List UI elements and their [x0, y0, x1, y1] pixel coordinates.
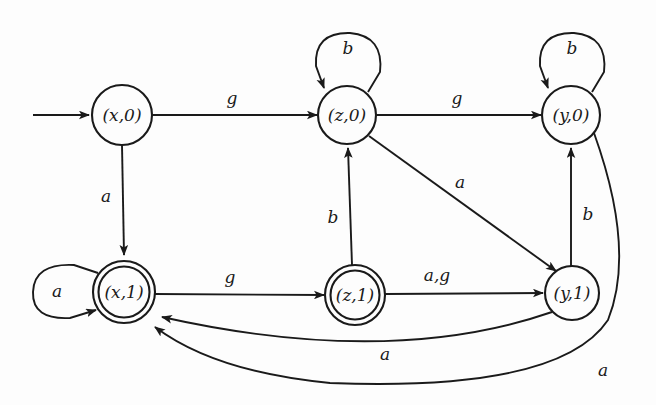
edge-x0-z0: g	[152, 88, 317, 116]
edge-z0-y0: g	[376, 88, 541, 116]
edge-y0-y0-selfloop: b	[540, 33, 605, 92]
edge-label-y0-x1: a	[598, 360, 608, 380]
state-label-x1: (x,1)	[104, 282, 143, 302]
edge-label-z0-z0: b	[343, 38, 354, 58]
state-label-y1: (y,1)	[554, 283, 591, 303]
edge-z0-y1: a	[369, 136, 556, 271]
edge-x0-x1: a	[101, 145, 124, 255]
edge-z0-z0-selfloop: b	[316, 33, 381, 92]
state-node-z0[interactable]: (z,0)	[318, 86, 376, 144]
edge-x1-z1: g	[155, 267, 324, 296]
edge-label-y0-y0: b	[567, 38, 578, 58]
edge-z1-y1: a,g	[385, 265, 543, 295]
state-node-y0[interactable]: (y,0)	[542, 86, 600, 144]
edge-label-y1-x1: a	[380, 344, 390, 364]
state-node-z1[interactable]: (z,1)	[325, 265, 385, 325]
state-node-x0[interactable]: (x,0)	[92, 85, 152, 145]
edge-label-x0-x1: a	[101, 186, 111, 206]
state-label-z1: (z,1)	[336, 285, 374, 305]
edge-y1-y0: b	[571, 148, 593, 266]
edge-label-x0-z0: g	[227, 88, 238, 108]
edge-label-x1-z1: g	[225, 267, 236, 287]
state-label-x0: (x,0)	[102, 105, 141, 125]
edge-label-z0-y0: g	[452, 88, 463, 108]
state-label-z0: (z,0)	[328, 105, 366, 125]
automaton-diagram-canvas: (z,0) --> g (y,0) --> g b b (x,1) --> a …	[0, 0, 656, 405]
edge-x1-x1-selfloop: a	[33, 265, 98, 318]
edge-z1-z0: b	[328, 148, 352, 265]
edge-label-z0-y1: a	[455, 172, 465, 192]
state-label-y0: (y,0)	[553, 105, 590, 125]
automaton-svg: (z,0) --> g (y,0) --> g b b (x,1) --> a …	[0, 0, 656, 405]
edge-label-z1-y1: a,g	[424, 265, 451, 285]
state-node-x1[interactable]: (x,1)	[93, 261, 155, 323]
edge-label-x1-x1: a	[52, 281, 62, 301]
edge-label-y1-y0: b	[583, 204, 594, 224]
edge-label-z1-z0: b	[328, 207, 339, 227]
state-node-y1[interactable]: (y,1)	[545, 266, 599, 320]
